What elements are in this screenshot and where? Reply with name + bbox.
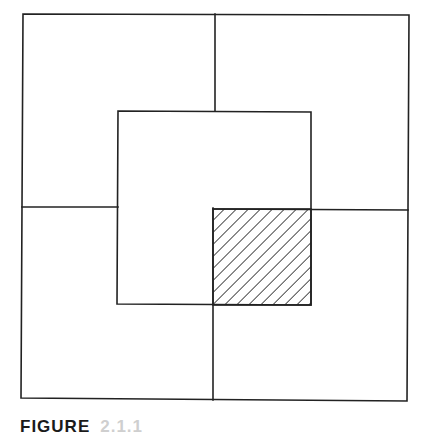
caption-label: FIGURE <box>20 417 90 436</box>
caption-number: 2.1.1 <box>100 417 143 436</box>
hatched-region <box>213 209 311 305</box>
figure-caption: FIGURE2.1.1 <box>20 417 143 436</box>
